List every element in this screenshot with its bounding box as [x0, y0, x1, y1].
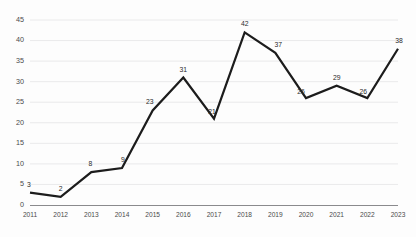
data-label: 42: [241, 20, 249, 27]
y-axis-tick-labels: 051015202530354045: [16, 15, 24, 209]
x-tick-label: 2015: [145, 211, 160, 218]
data-label: 3: [27, 181, 31, 188]
y-tick-label: 40: [16, 35, 24, 44]
x-tick-label: 2011: [23, 211, 38, 218]
data-label: 21: [208, 108, 216, 115]
data-label: 26: [360, 88, 368, 95]
data-label: 8: [88, 160, 92, 167]
data-label: 38: [395, 37, 403, 44]
x-tick-label: 2017: [207, 211, 222, 218]
y-tick-label: 20: [16, 118, 24, 127]
x-tick-label: 2021: [329, 211, 344, 218]
x-tick-label: 2019: [268, 211, 283, 218]
gridlines: [30, 20, 398, 184]
y-tick-label: 15: [16, 138, 24, 147]
chart-canvas: 051015202530354045 201120122013201420152…: [0, 0, 416, 237]
y-tick-label: 35: [16, 56, 24, 65]
data-label: 29: [333, 74, 341, 81]
x-tick-label: 2018: [237, 211, 252, 218]
data-label: 2: [59, 185, 63, 192]
x-axis-tick-labels: 2011201220132014201520162017201820192020…: [23, 211, 406, 218]
data-label: 31: [180, 66, 188, 73]
y-tick-label: 25: [16, 97, 24, 106]
data-label: 26: [297, 88, 305, 95]
line-chart: 051015202530354045 201120122013201420152…: [0, 0, 416, 237]
x-tick-label: 2022: [360, 211, 375, 218]
data-label: 9: [121, 156, 125, 163]
y-tick-label: 45: [16, 15, 24, 24]
y-tick-label: 5: [20, 179, 24, 188]
data-label: 23: [146, 98, 154, 105]
data-point-labels: 3289233121423726292638: [27, 20, 403, 191]
x-tick-label: 2013: [84, 211, 99, 218]
y-tick-label: 10: [16, 159, 24, 168]
x-tick-label: 2012: [53, 211, 68, 218]
y-tick-label: 30: [16, 77, 24, 86]
x-tick-label: 2014: [115, 211, 130, 218]
x-tick-label: 2016: [176, 211, 191, 218]
y-tick-label: 0: [20, 200, 24, 209]
x-tick-label: 2020: [299, 211, 314, 218]
x-tick-label: 2023: [391, 211, 406, 218]
data-label: 37: [275, 41, 283, 48]
